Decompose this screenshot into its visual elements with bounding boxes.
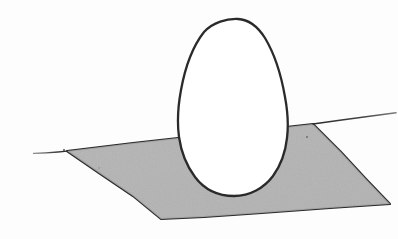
egg-on-plane-illustration: [0, 0, 398, 239]
figure-canvas: Egg resting on a tilted flat plane Line …: [0, 0, 398, 239]
ink-speck-icon: [306, 136, 308, 138]
ink-speck-icon: [63, 149, 65, 151]
ink-speck-icon: [98, 167, 100, 169]
